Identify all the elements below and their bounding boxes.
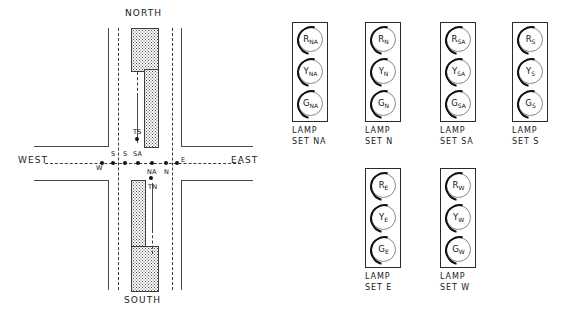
lamp-housing-sa: RSAYSAGSA [440,22,476,122]
lamp-red-na[interactable]: RNA [298,27,323,52]
lamp-green-na[interactable]: GNA [298,91,323,116]
lane-divider-vertical-left [118,28,119,290]
lamp-label-red-e: RE [379,181,389,190]
lamp-label-red-w: RW [453,181,465,190]
lamp-subscript: W [459,248,465,255]
lamp-caption-line1: LAMP [292,125,328,136]
lamp-label-green-e: GE [378,245,388,254]
lamp-label-green-sa: GSA [451,99,466,108]
lamp-subscript: S [532,38,536,45]
road-edge-north-west [108,28,109,146]
road-edge-south-west [108,180,109,290]
lamp-letter: G [303,98,310,108]
lamp-set-e[interactable]: REYEGELAMPSET E [365,168,401,293]
lamp-subscript: NA [309,38,318,45]
lamp-set-caption-e: LAMPSET E [365,271,401,293]
lamp-housing-na: RNAYNAGNA [292,22,328,122]
lamp-label-red-sa: RSA [452,35,466,44]
median-guide-dash-north [137,72,138,96]
lamp-green-e[interactable]: GE [371,237,396,262]
lamp-subscript: E [385,248,389,255]
lamp-set-s[interactable]: RSYSGSLAMPSET S [512,22,548,147]
lamp-set-caption-w: LAMPSET W [440,271,476,293]
median-north-upper [131,28,159,72]
lamp-label-yellow-na: YNA [304,67,318,76]
compass-label-north: NORTH [125,8,162,18]
lamp-caption-line2: SET W [440,282,476,293]
lamp-subscript: SA [457,70,465,77]
detector-dot-sa [136,161,140,165]
lamp-yellow-na[interactable]: YNA [298,59,323,84]
lamp-caption-line2: SET E [365,282,401,293]
lamp-caption-line2: SET NA [292,136,328,147]
compass-label-west: WEST [18,155,48,165]
lamp-letter: R [379,180,385,190]
lamp-subscript: SA [457,38,465,45]
detector-dot-n [164,161,168,165]
detector-dot-ts [135,137,139,141]
lamp-green-s[interactable]: GS [518,91,543,116]
road-edge-east-south [181,180,253,181]
lamp-set-n[interactable]: RNYNGNLAMPSET N [365,22,401,147]
lamp-label-yellow-e: YE [379,213,388,222]
lamp-caption-line1: LAMP [365,271,401,282]
lamp-caption-line2: SET S [512,136,548,147]
median-south-lower [131,246,159,292]
detector-label-ts: TS [133,128,142,136]
lamp-subscript: W [458,216,464,223]
detector-dot-s2 [123,161,127,165]
detector-label-n: N [164,168,169,176]
lamp-yellow-sa[interactable]: YSA [446,59,471,84]
compass-label-south: SOUTH [124,295,161,305]
lamp-label-green-na: GNA [303,99,318,108]
road-edge-north-east [181,28,182,146]
lamp-caption-line1: LAMP [365,125,401,136]
lamp-yellow-w[interactable]: YW [446,205,471,230]
lamp-green-sa[interactable]: GSA [446,91,471,116]
lamp-label-red-s: RS [526,35,536,44]
lamp-yellow-s[interactable]: YS [518,59,543,84]
lamp-housing-e: REYEGE [365,168,401,268]
road-edge-south-east [181,180,182,290]
lamp-set-caption-n: LAMPSET N [365,125,401,147]
lamp-letter: G [451,98,458,108]
lamp-label-yellow-s: YS [526,67,535,76]
lane-divider-vertical-right [172,28,173,290]
lamp-yellow-n[interactable]: YN [371,59,396,84]
lamp-caption-line1: LAMP [440,271,476,282]
lamp-red-s[interactable]: RS [518,27,543,52]
lamp-green-w[interactable]: GW [446,237,471,262]
lamp-caption-line1: LAMP [440,125,476,136]
median-south-upper [131,180,146,249]
lamp-caption-line2: SET SA [440,136,476,147]
lamp-housing-w: RWYWGW [440,168,476,268]
lamp-label-yellow-w: YW [453,213,464,222]
lamp-label-green-s: GS [525,99,535,108]
lamp-set-caption-s: LAMPSET S [512,125,548,147]
diagram-canvas: NORTH SOUTH WEST EAST WSSSANANETSTN RN [0,0,572,316]
lamp-label-red-n: RN [378,35,388,44]
lamp-letter: R [526,34,532,44]
lamp-green-n[interactable]: GN [371,91,396,116]
lamp-red-e[interactable]: RE [371,173,396,198]
lamp-letter: G [525,98,532,108]
lamp-subscript: E [385,184,389,191]
lamp-red-n[interactable]: RN [371,27,396,52]
lamp-set-na[interactable]: RNAYNAGNALAMPSET NA [292,22,328,147]
lamp-yellow-e[interactable]: YE [371,205,396,230]
lamp-subscript: E [384,216,388,223]
detector-dot-e [175,161,179,165]
detector-dot-s1 [111,161,115,165]
lamp-red-w[interactable]: RW [446,173,471,198]
lamp-red-sa[interactable]: RSA [446,27,471,52]
lamp-label-red-na: RNA [303,35,318,44]
lamp-set-w[interactable]: RWYWGWLAMPSET W [440,168,476,293]
lamp-caption-line1: LAMP [512,125,548,136]
lamp-label-green-w: GW [452,245,465,254]
lamp-letter: G [452,244,459,254]
lamp-set-caption-na: LAMPSET NA [292,125,328,147]
lamp-set-sa[interactable]: RSAYSAGSALAMPSET SA [440,22,476,147]
road-edge-west-south [34,180,109,181]
lane-divider-horizontal [45,163,241,164]
detector-label-s1: S [111,150,115,158]
